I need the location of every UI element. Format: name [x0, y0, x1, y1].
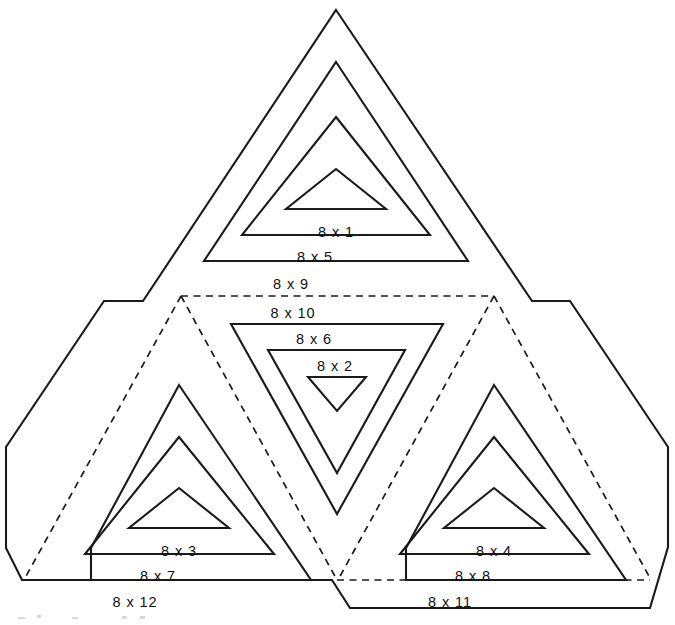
label-right-outer: 8 x 11 — [428, 594, 472, 610]
label-left-outer: 8 x 12 — [113, 594, 158, 610]
scan-speck — [72, 617, 78, 619]
label-top-inner: 8 x 1 — [318, 224, 354, 240]
scan-speck — [122, 616, 127, 619]
label-left-middle: 8 x 7 — [140, 568, 176, 584]
label-center-outer: 8 x 10 — [271, 305, 316, 321]
scan-speck — [37, 615, 41, 618]
tetrahedron-net-diagram: 8 x 1 8 x 5 8 x 9 8 x 10 8 x 6 8 x 2 8 x… — [0, 0, 675, 625]
label-top-outer: 8 x 9 — [273, 276, 309, 292]
label-left-inner: 8 x 3 — [161, 543, 197, 559]
scan-speck — [18, 617, 25, 619]
label-top-middle: 8 x 5 — [297, 249, 333, 265]
page-background — [0, 0, 675, 625]
label-right-middle: 8 x 8 — [455, 568, 491, 584]
label-center-middle: 8 x 6 — [296, 331, 332, 347]
label-right-inner: 8 x 4 — [476, 543, 512, 559]
label-center-inner: 8 x 2 — [317, 358, 353, 374]
scan-speck — [140, 616, 145, 619]
